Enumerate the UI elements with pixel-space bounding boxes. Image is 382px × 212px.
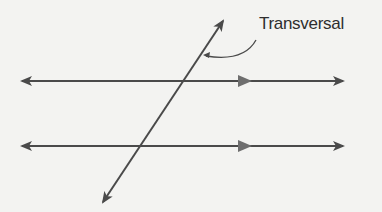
callout-arrow-icon — [203, 52, 210, 58]
transversal-diagram: Transversal — [0, 0, 382, 212]
callout-pointer — [203, 40, 256, 58]
transversal-label: Transversal — [259, 15, 344, 32]
lower-parallel-line — [22, 140, 343, 152]
transversal-line — [103, 21, 223, 202]
parallel-marker-icon — [238, 140, 252, 152]
parallel-marker-icon — [238, 75, 252, 87]
